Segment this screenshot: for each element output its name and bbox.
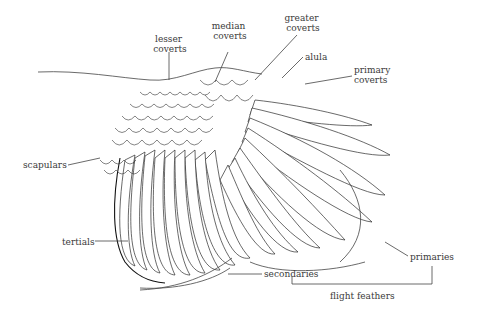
label-greater-coverts: greater coverts bbox=[285, 13, 322, 33]
label-alula: alula bbox=[305, 52, 328, 62]
label-lesser-coverts: lesser coverts bbox=[153, 34, 187, 54]
scapulars-leader bbox=[68, 158, 100, 165]
label-secondaries: secondaries bbox=[264, 269, 319, 279]
label-primary-coverts: primary coverts bbox=[354, 65, 393, 85]
body-outline bbox=[38, 68, 262, 81]
greater-coverts-leader bbox=[255, 35, 297, 80]
label-primaries: primaries bbox=[410, 252, 454, 262]
median-coverts-leader bbox=[215, 52, 228, 82]
primary-coverts-leader bbox=[305, 76, 352, 84]
label-median-coverts: median coverts bbox=[212, 21, 249, 41]
alula-leader bbox=[282, 57, 303, 78]
wing-diagram: lesser coverts median coverts greater co… bbox=[0, 0, 479, 316]
primaries-leader bbox=[385, 242, 408, 256]
label-scapulars: scapulars bbox=[23, 160, 67, 170]
wing-illustration: lesser coverts median coverts greater co… bbox=[0, 0, 479, 316]
primaries-feathers bbox=[220, 100, 390, 254]
label-tertials: tertials bbox=[62, 237, 95, 247]
label-flight-feathers: flight feathers bbox=[330, 291, 395, 301]
